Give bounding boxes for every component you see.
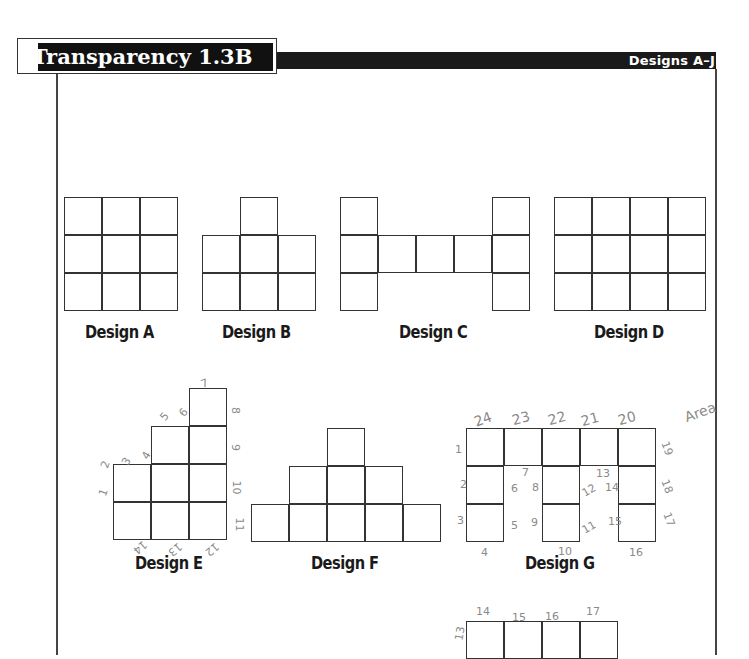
design-c-label: Design C	[399, 322, 467, 342]
design-g-square	[466, 428, 504, 466]
design-f-square	[365, 504, 403, 542]
handwritten-number: 9	[531, 516, 538, 529]
handwritten-number: 10	[558, 545, 572, 558]
handwritten-number: 16	[545, 610, 559, 623]
design-f-square	[327, 428, 365, 466]
design-g-square	[618, 428, 656, 466]
handwritten-number: 24	[472, 408, 494, 429]
handwritten-number: 12	[580, 481, 599, 499]
handwritten-number: 5	[157, 410, 171, 424]
design-f-square	[365, 466, 403, 504]
handwritten-number: 11	[233, 518, 246, 532]
handwritten-number: 5	[511, 519, 518, 532]
design-d-square	[668, 197, 706, 235]
handwritten-number: 13	[452, 625, 467, 641]
design-h-square	[542, 621, 580, 659]
design-c-square	[416, 235, 454, 273]
handwritten-number: 10	[230, 481, 243, 495]
handwritten-number: 23	[510, 408, 531, 428]
handwritten-number: 15	[512, 611, 526, 624]
design-d-square	[592, 235, 630, 273]
margin-note: Area	[682, 399, 718, 425]
design-b-square	[278, 273, 316, 311]
design-b-square	[240, 273, 278, 311]
frame-left-rule	[56, 74, 58, 655]
design-a-label: Design A	[85, 322, 154, 342]
design-f-square	[289, 466, 327, 504]
design-e-square	[113, 502, 151, 540]
design-c-square	[378, 235, 416, 273]
design-g-square	[542, 428, 580, 466]
design-g-square	[580, 428, 618, 466]
design-b-square	[240, 235, 278, 273]
handwritten-number: 6	[511, 482, 518, 495]
design-e-square	[189, 388, 227, 426]
design-f-square	[327, 504, 365, 542]
design-a-square	[64, 235, 102, 273]
design-a-square	[140, 273, 178, 311]
design-g-square	[618, 466, 656, 504]
page-title: Transparency 1.3B	[38, 43, 273, 71]
design-d-square	[554, 197, 592, 235]
design-g-square	[504, 428, 542, 466]
handwritten-number: 13	[596, 467, 610, 480]
design-e-square	[151, 502, 189, 540]
handwritten-number: 22	[546, 408, 567, 428]
design-d-square	[592, 273, 630, 311]
design-c-square	[492, 197, 530, 235]
design-a-square	[102, 273, 140, 311]
handwritten-number: 21	[579, 409, 600, 429]
design-h-square	[504, 621, 542, 659]
design-a-square	[140, 235, 178, 273]
design-f-square	[403, 504, 441, 542]
design-d-square	[630, 197, 668, 235]
design-g-square	[618, 504, 656, 542]
design-b-label: Design B	[222, 322, 291, 342]
design-b-square	[240, 197, 278, 235]
handwritten-number: 17	[586, 605, 600, 618]
design-e-square	[189, 426, 227, 464]
header-subtitle: Designs A–J	[629, 52, 715, 69]
design-e-square	[151, 464, 189, 502]
handwritten-number: 1	[96, 487, 111, 498]
design-f-square	[327, 466, 365, 504]
design-c-square	[454, 235, 492, 273]
design-e-square	[189, 464, 227, 502]
design-f-label: Design F	[311, 553, 379, 573]
design-b-square	[202, 235, 240, 273]
handwritten-number: 15	[608, 515, 622, 528]
design-c-square	[492, 235, 530, 273]
handwritten-number: 14	[605, 481, 619, 494]
handwritten-number: 3	[457, 514, 464, 527]
frame-right-rule	[715, 69, 717, 655]
design-d-square	[554, 273, 592, 311]
design-e-square	[189, 502, 227, 540]
design-e-label: Design E	[135, 553, 203, 573]
handwritten-number: 12	[202, 540, 221, 559]
design-d-square	[630, 235, 668, 273]
handwritten-number: 8	[229, 407, 242, 414]
handwritten-number: 16	[629, 546, 643, 559]
design-b-square	[278, 235, 316, 273]
design-e-square	[113, 464, 151, 502]
design-a-square	[64, 273, 102, 311]
design-d-square	[630, 273, 668, 311]
design-a-square	[140, 197, 178, 235]
handwritten-number: 8	[532, 481, 539, 494]
design-d-square	[554, 235, 592, 273]
design-h-square	[580, 621, 618, 659]
handwritten-number: 11	[580, 518, 599, 536]
design-h-square	[466, 621, 504, 659]
design-c-square	[340, 197, 378, 235]
handwritten-number: 14	[476, 605, 490, 618]
design-b-square	[202, 273, 240, 311]
design-g-square	[542, 466, 580, 504]
design-f-square	[251, 504, 289, 542]
handwritten-number: 18	[658, 478, 675, 496]
design-a-square	[102, 235, 140, 273]
design-c-square	[340, 235, 378, 273]
design-g-square	[542, 504, 580, 542]
design-g-square	[466, 466, 504, 504]
handwritten-number: 17	[660, 511, 677, 529]
design-a-square	[102, 197, 140, 235]
